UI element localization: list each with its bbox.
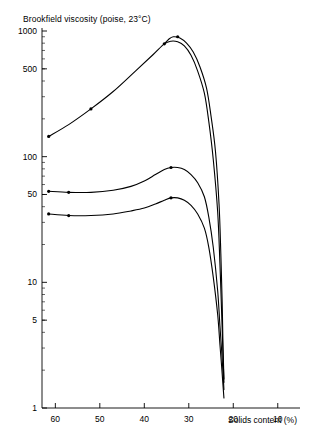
data-point-marker [163, 42, 166, 45]
data-line-curve-1-upper [49, 41, 224, 382]
data-point-marker [169, 196, 172, 199]
data-series-group [49, 37, 224, 398]
data-point-marker [47, 135, 50, 138]
y-tick-label: 1 [32, 403, 37, 413]
data-point-marker [176, 35, 179, 38]
x-axis-title: Solids content (%) [228, 415, 297, 425]
data-line-curve-3-middle [49, 167, 224, 389]
chart-figure: Brookfield viscosity (poise, 23°C) 10005… [0, 0, 316, 446]
y-axis-ticks [42, 31, 47, 408]
x-axis-ticks [55, 403, 277, 408]
y-tick-label: 50 [28, 189, 38, 199]
x-tick-label: 40 [140, 414, 150, 424]
y-tick-label: 10 [28, 277, 38, 287]
x-tick-label: 50 [95, 414, 105, 424]
x-tick-label: 60 [51, 414, 61, 424]
y-axis-tick-labels: 1000500100501051 [18, 26, 37, 413]
data-point-marker [169, 166, 172, 169]
data-line-curve-4-lower [49, 198, 224, 398]
data-point-marker [47, 212, 50, 215]
x-tick-label: 30 [184, 414, 194, 424]
data-point-marker [89, 107, 92, 110]
y-tick-label: 5 [32, 315, 37, 325]
chart-plot-area: 1000500100501051 605040302010 Solids con… [0, 0, 316, 446]
data-line-curve-2-upper-overlap [164, 37, 224, 379]
y-tick-label: 100 [23, 152, 37, 162]
y-tick-label: 500 [23, 64, 37, 74]
y-tick-label: 1000 [18, 26, 37, 36]
data-point-marker [47, 190, 50, 193]
data-point-marker [67, 214, 70, 217]
data-point-marker [67, 191, 70, 194]
